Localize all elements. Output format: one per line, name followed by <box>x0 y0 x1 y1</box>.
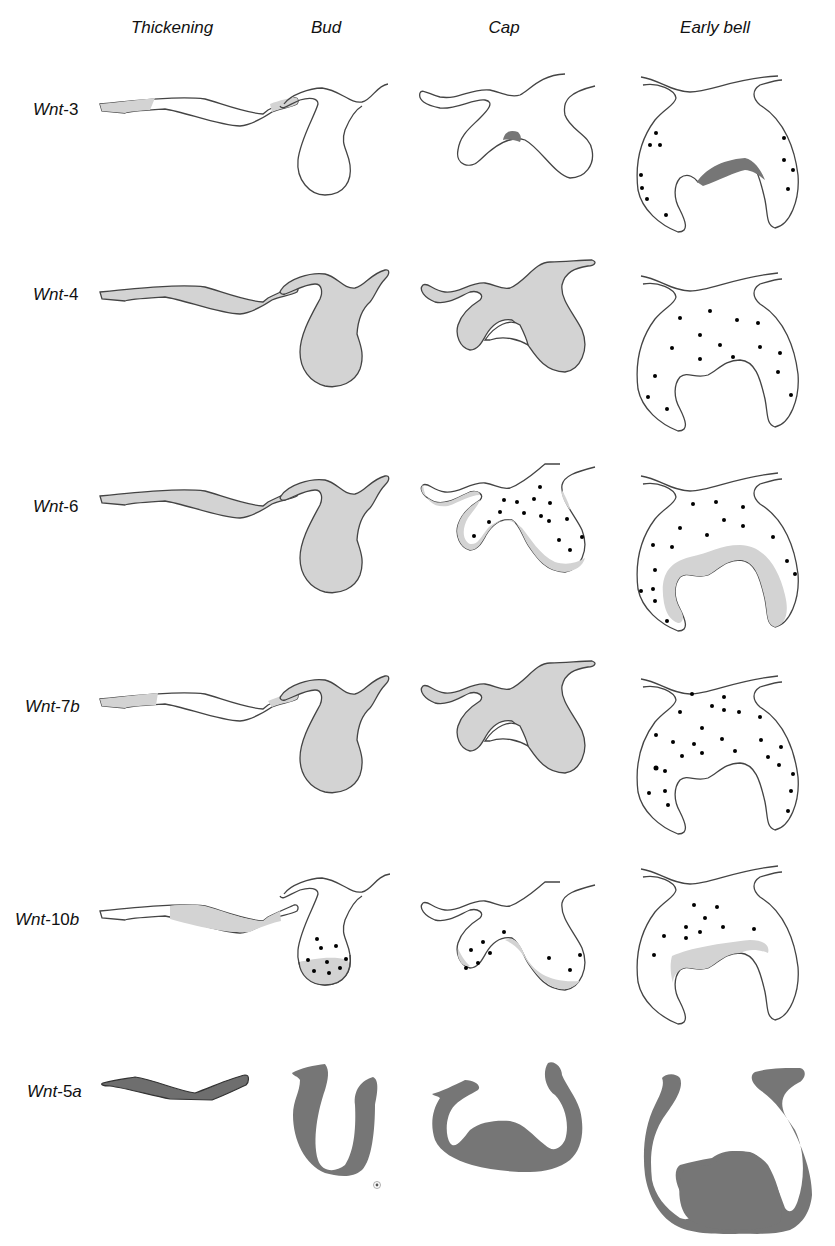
wnt5a-thickening <box>102 1075 249 1100</box>
wnt7b-bud <box>280 676 389 793</box>
expression-dots <box>647 692 795 813</box>
wnt6-cap <box>421 464 595 572</box>
wnt6-early-bell <box>637 473 798 631</box>
expression-diagram <box>0 0 835 1246</box>
expression-dots <box>646 309 793 411</box>
wnt7b-early-bell <box>637 676 798 834</box>
wnt3-thickening <box>100 98 298 126</box>
wnt5a-bud <box>292 1064 381 1189</box>
wnt5a-early-bell <box>644 1068 812 1234</box>
wnt4-cap <box>421 260 595 372</box>
wnt7b-thickening <box>100 693 298 721</box>
wnt10b-bud <box>280 874 390 985</box>
wnt5a-cap <box>432 1062 582 1172</box>
wnt4-thickening <box>100 286 298 314</box>
wnt4-early-bell <box>637 273 798 431</box>
expression-dots <box>464 930 582 972</box>
wnt10b-cap <box>421 882 595 990</box>
wnt6-bud <box>280 476 389 593</box>
wnt10b-early-bell <box>637 866 798 1024</box>
wnt10b-thickening <box>100 905 298 933</box>
wnt3-early-bell <box>637 76 798 232</box>
wnt3-cap <box>420 74 595 178</box>
wnt6-thickening <box>100 490 298 518</box>
wnt4-bud <box>280 270 389 387</box>
wnt7b-cap <box>421 661 595 773</box>
